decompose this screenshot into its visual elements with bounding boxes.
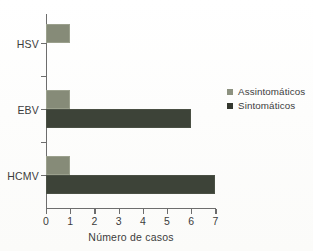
legend-swatch-icon-assintomaticos	[227, 89, 233, 95]
x-axis-tick-label-2: 2	[86, 215, 102, 227]
x-axis-tick-label-1: 1	[62, 215, 78, 227]
x-axis-tick-6	[191, 209, 192, 214]
x-axis-tick-label-3: 3	[111, 215, 127, 227]
legend-label-sintomaticos: Sintomáticos	[238, 100, 295, 111]
legend-item-assintomaticos: Assintomáticos	[227, 85, 313, 98]
bar-hcmv-sintomaticos	[46, 175, 215, 194]
x-axis-tick-0	[46, 209, 47, 214]
bar-ebv-sintomaticos	[46, 109, 191, 128]
x-axis-tick-label-6: 6	[183, 215, 199, 227]
bar-chart: HSV EBV HCMV 01234567 Número de casos As…	[0, 0, 313, 251]
x-axis-tick-5	[167, 209, 168, 214]
y-axis-label-hsv: HSV	[1, 38, 39, 50]
y-axis-label-hcmv: HCMV	[1, 170, 39, 182]
x-axis-tick-label-0: 0	[38, 215, 54, 227]
x-axis-tick-4	[143, 209, 144, 214]
x-axis-tick-2	[94, 209, 95, 214]
legend: Assintomáticos Sintomáticos	[227, 85, 313, 113]
legend-item-sintomaticos: Sintomáticos	[227, 99, 313, 112]
x-axis-title: Número de casos	[46, 231, 216, 243]
x-axis-tick-label-7: 7	[207, 215, 223, 227]
y-axis-label-ebv: EBV	[1, 104, 39, 116]
plot-area	[46, 14, 216, 208]
bar-hsv-assintomaticos	[46, 24, 70, 43]
legend-label-assintomaticos: Assintomáticos	[238, 86, 305, 97]
bar-ebv-assintomaticos	[46, 90, 70, 109]
bar-hcmv-assintomaticos	[46, 156, 70, 175]
x-axis-tick-7	[215, 209, 216, 214]
x-axis-tick-1	[70, 209, 71, 214]
x-axis-tick-label-5: 5	[159, 215, 175, 227]
y-axis-labels: HSV EBV HCMV	[0, 0, 39, 251]
legend-swatch-icon-sintomaticos	[227, 103, 233, 109]
x-axis-tick-3	[119, 209, 120, 214]
x-axis-tick-label-4: 4	[135, 215, 151, 227]
